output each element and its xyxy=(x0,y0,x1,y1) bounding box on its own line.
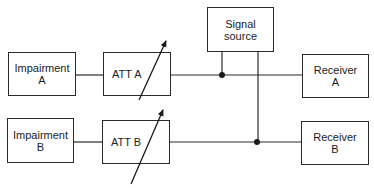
variable-arrow-b-icon xyxy=(131,110,163,184)
variable-arrow-a-icon xyxy=(139,41,166,100)
variable-attenuator-arrows xyxy=(0,0,374,188)
